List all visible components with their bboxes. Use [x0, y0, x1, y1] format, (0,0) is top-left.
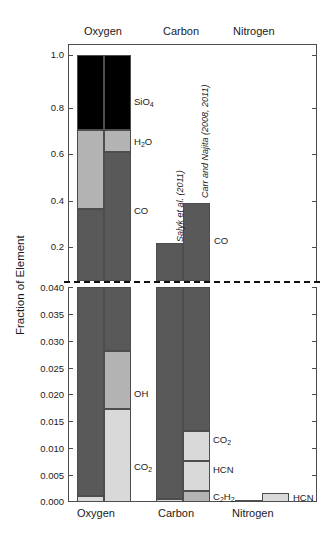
citation-carr-najita: Carr and Najita (2008, 2011): [200, 85, 210, 198]
segment-CO: [156, 287, 183, 499]
annotation-HCN-nitrogen: HCN: [293, 492, 314, 503]
tick-0.025: [68, 368, 73, 369]
tick-right-0.010: [312, 448, 317, 449]
tick-0.000: [68, 501, 73, 502]
ytick-label-0.015: 0.015: [24, 416, 64, 427]
bar-nitrogen-salyk-lower[interactable]: [235, 287, 262, 502]
ytick-label-0.8: 0.8: [30, 102, 64, 113]
tick-0.040: [68, 287, 73, 288]
tick-0.6: [68, 154, 73, 155]
segment-OH: [104, 351, 131, 409]
tick-right-0.005: [312, 475, 317, 476]
annotation-SiO4: SiO4: [134, 96, 154, 108]
bar-carbon-salyk-upper[interactable]: [156, 44, 183, 281]
ytick-label-0.040: 0.040: [24, 282, 64, 293]
axis-break-line: [64, 281, 320, 283]
lower-panel: [68, 287, 317, 502]
annotation-CO-oxygen: CO: [134, 205, 148, 216]
annotation-CO-carbon: CO: [214, 235, 228, 246]
tick-0.8: [68, 108, 73, 109]
tick-0.010: [68, 448, 73, 449]
group-header-nitrogen: Nitrogen: [233, 25, 275, 37]
segment-CO: [77, 287, 104, 496]
segment-H2O: [77, 130, 104, 209]
upper-panel: [68, 44, 317, 281]
ytick-label-1.0: 1.0: [30, 49, 64, 60]
segment-HCN: [235, 500, 262, 502]
tick-right-0.020: [312, 394, 317, 395]
tick-right-0.035: [312, 314, 317, 315]
group-header-oxygen: Oxygen: [84, 25, 122, 37]
tick-1.0: [68, 55, 73, 56]
tick-0.020: [68, 394, 73, 395]
tick-0.035: [68, 314, 73, 315]
tick-right-0.4: [312, 201, 317, 202]
ytick-label-0.035: 0.035: [24, 309, 64, 320]
annotation-CO2-oxygen: CO2: [134, 461, 152, 473]
tick-0.4: [68, 201, 73, 202]
annotation-C2H2-carbon: C2H2: [213, 491, 235, 503]
tick-0.030: [68, 341, 73, 342]
segment-CO2: [183, 431, 210, 461]
segment-CO: [104, 152, 131, 281]
citation-salyk: Salyk et al. (2011): [175, 170, 185, 242]
category-label-oxygen: Oxygen: [77, 507, 115, 519]
ytick-label-0.010: 0.010: [24, 443, 64, 454]
bar-carbon-salyk-lower[interactable]: [156, 287, 183, 502]
ytick-label-0.025: 0.025: [24, 363, 64, 374]
segment-CO: [104, 287, 131, 351]
category-label-carbon: Carbon: [158, 507, 194, 519]
bar-oxygen-salyk-lower[interactable]: [77, 287, 104, 502]
segment-CO: [77, 209, 104, 281]
segment-CO2: [104, 409, 131, 502]
tick-right-0.015: [312, 421, 317, 422]
category-label-nitrogen: Nitrogen: [232, 507, 274, 519]
segment-CO: [183, 287, 210, 431]
tick-right-0.040: [312, 287, 317, 288]
annotation-CO2-carbon: CO2: [213, 434, 231, 446]
segment-CO: [156, 243, 183, 281]
segment-C2H2: [156, 499, 183, 502]
figure-canvas: Oxygen Carbon Nitrogen Fraction of Eleme…: [0, 0, 329, 554]
tick-right-0.2: [312, 247, 317, 248]
segment-HCN: [183, 461, 210, 491]
group-header-carbon: Carbon: [163, 25, 199, 37]
segment-SiO4: [104, 55, 131, 130]
bar-oxygen-carr-lower[interactable]: [104, 287, 131, 502]
segment-CO2: [77, 496, 104, 502]
annotation-HCN-carbon: HCN: [213, 464, 234, 475]
ytick-label-0.000: 0.000: [24, 496, 64, 507]
tick-right-0.025: [312, 368, 317, 369]
ytick-label-0.2: 0.2: [30, 241, 64, 252]
annotation-H2O: H2O: [134, 136, 152, 148]
tick-0.2: [68, 247, 73, 248]
tick-right-0.6: [312, 154, 317, 155]
tick-0.005: [68, 475, 73, 476]
ytick-label-0.030: 0.030: [24, 336, 64, 347]
tick-right-1.0: [312, 55, 317, 56]
bar-oxygen-salyk-upper[interactable]: [77, 44, 104, 281]
tick-0.015: [68, 421, 73, 422]
segment-CO: [183, 203, 210, 281]
ytick-label-0.005: 0.005: [24, 470, 64, 481]
bar-carbon-carr-lower[interactable]: [183, 287, 210, 502]
ytick-label-0.4: 0.4: [30, 195, 64, 206]
ytick-label-0.020: 0.020: [24, 389, 64, 400]
segment-SiO4: [77, 55, 104, 130]
bar-nitrogen-carr-lower[interactable]: [262, 287, 289, 502]
segment-HCN: [262, 493, 289, 502]
segment-C2H2: [183, 491, 210, 502]
tick-right-0.8: [312, 108, 317, 109]
ytick-label-0.6: 0.6: [30, 148, 64, 159]
tick-right-0.030: [312, 341, 317, 342]
annotation-OH: OH: [134, 388, 148, 399]
bar-oxygen-carr-upper[interactable]: [104, 44, 131, 281]
segment-H2O: [104, 130, 131, 152]
